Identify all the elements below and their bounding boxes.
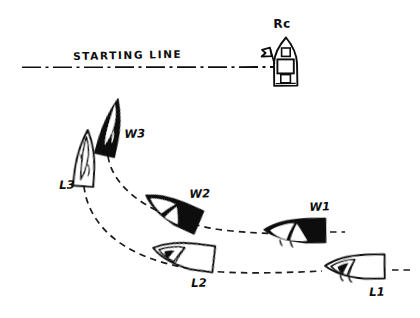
starting-line [22,67,283,68]
boat-label-w1: W1 [309,199,331,214]
diagram-canvas [0,0,420,318]
boat-label-l3: L3 [59,178,75,192]
boat-label-w3: W3 [124,126,146,141]
boat-label-w2: W2 [189,186,211,201]
boat-label-l2: L2 [191,276,207,290]
boat-l3 [73,129,98,187]
boat-l1 [325,252,386,283]
sailing-tactics-diagram: STARTING LINE Rc W3 L3 W2 L2 W1 L1 [0,0,420,318]
starting-line-label: STARTING LINE [73,48,182,62]
race-committee-label: Rc [273,16,291,31]
boat-w1 [263,216,326,249]
boat-label-l1: L1 [369,285,385,299]
race-committee-boat [262,38,298,86]
boat-l2 [150,233,218,274]
